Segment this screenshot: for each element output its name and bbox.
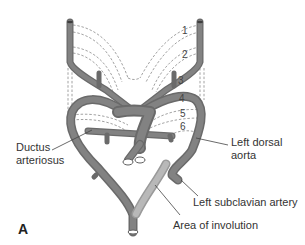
panel-label: A [18, 221, 28, 237]
arch-number-3: 3 [178, 75, 184, 86]
arch-number-4: 4 [179, 93, 185, 104]
arch-number-2: 2 [182, 49, 188, 60]
label-left-dorsal-aorta: Left dorsal aorta [231, 136, 282, 162]
label-area-of-involution: Area of involution [173, 219, 258, 232]
arch-number-5: 5 [180, 108, 186, 119]
label-ductus-arteriosus: Ductus arteriosus [16, 141, 64, 167]
label-left-subclavian-artery: Left subclavian artery [193, 196, 298, 209]
arch-number-1: 1 [182, 25, 188, 36]
right-arch-loop [71, 100, 133, 232]
arch-number-6: 6 [180, 121, 186, 132]
